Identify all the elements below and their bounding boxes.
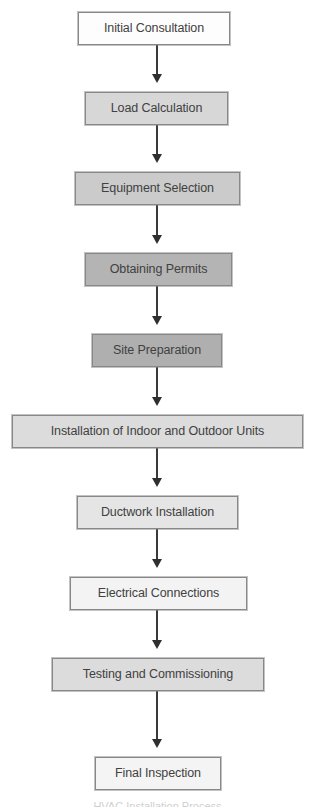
node-label: Load Calculation [111, 102, 203, 115]
flow-connector-8 [156, 610, 158, 641]
arrowhead-icon-8 [152, 640, 162, 649]
arrowhead-icon-4 [152, 316, 162, 325]
flow-connector-3 [156, 205, 158, 236]
node-label: Ductwork Installation [101, 506, 214, 519]
flow-connector-1 [156, 45, 158, 75]
flowchart-canvas: Initial ConsultationLoad CalculationEqui… [0, 0, 315, 808]
node-final-inspection[interactable]: Final Inspection [95, 757, 221, 790]
arrowhead-icon-3 [152, 235, 162, 244]
arrowhead-icon-5 [152, 397, 162, 406]
node-label: Obtaining Permits [110, 263, 208, 276]
arrowhead-icon-6 [152, 478, 162, 487]
node-label: Final Inspection [115, 767, 201, 780]
node-site-preparation[interactable]: Site Preparation [92, 334, 222, 367]
node-label: Testing and Commissioning [83, 668, 233, 681]
flow-connector-4 [156, 286, 158, 317]
node-initial-consultation[interactable]: Initial Consultation [78, 12, 230, 45]
node-obtaining-permits[interactable]: Obtaining Permits [85, 253, 232, 286]
flow-connector-9 [156, 691, 158, 740]
arrowhead-icon-2 [152, 154, 162, 163]
node-label: Installation of Indoor and Outdoor Units [51, 425, 265, 438]
node-installation-indoor-outdoor-units[interactable]: Installation of Indoor and Outdoor Units [12, 415, 303, 448]
arrowhead-icon-7 [152, 559, 162, 568]
arrowhead-icon-9 [152, 739, 162, 748]
flow-connector-2 [156, 125, 158, 155]
flow-connector-6 [156, 448, 158, 479]
node-label: Equipment Selection [101, 182, 214, 195]
node-electrical-connections[interactable]: Electrical Connections [70, 577, 247, 610]
flow-connector-5 [156, 367, 158, 398]
node-load-calculation[interactable]: Load Calculation [85, 92, 228, 125]
flow-connector-7 [156, 529, 158, 560]
node-label: Initial Consultation [104, 22, 204, 35]
arrowhead-icon-1 [152, 74, 162, 83]
node-ductwork-installation[interactable]: Ductwork Installation [77, 496, 238, 529]
node-testing-and-commissioning[interactable]: Testing and Commissioning [52, 658, 264, 691]
node-label: Electrical Connections [98, 587, 219, 600]
figure-caption: HVAC Installation Process [0, 801, 315, 807]
node-label: Site Preparation [113, 344, 201, 357]
node-equipment-selection[interactable]: Equipment Selection [75, 172, 240, 205]
